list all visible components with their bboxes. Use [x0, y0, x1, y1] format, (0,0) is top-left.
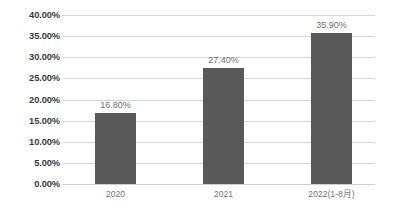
x-tick-label-2021: 2021	[183, 189, 264, 200]
bar-chart: 40.00% 35.00% 30.00% 25.00% 20.00% 15.00…	[0, 0, 399, 215]
y-axis: 40.00% 35.00% 30.00% 25.00% 20.00% 15.00…	[0, 0, 60, 215]
bar-2021[interactable]	[203, 68, 244, 184]
y-tick-label: 35.00%	[2, 31, 60, 41]
bar-value-label-2020: 16.80%	[75, 100, 156, 111]
plot-area: 16.80% 27.40% 35.90%	[62, 0, 375, 215]
y-tick-label: 5.00%	[2, 158, 60, 168]
bar-2022[interactable]	[311, 33, 352, 185]
y-tick-label: 20.00%	[2, 95, 60, 105]
y-tick-label: 25.00%	[2, 73, 60, 83]
y-tick-label: 0.00%	[2, 179, 60, 189]
bar-2020[interactable]	[95, 113, 136, 184]
y-tick-label: 30.00%	[2, 52, 60, 62]
bar-value-label-2022: 35.90%	[291, 20, 372, 31]
y-tick-label: 10.00%	[2, 137, 60, 147]
x-axis: 2020 2021 2022(1-8月)	[62, 189, 375, 209]
bars-layer: 16.80% 27.40% 35.90%	[62, 0, 375, 215]
bar-value-label-2021: 27.40%	[183, 55, 264, 66]
x-tick-label-2020: 2020	[75, 189, 156, 200]
y-tick-label: 15.00%	[2, 116, 60, 126]
y-tick-label: 40.00%	[2, 10, 60, 20]
x-tick-label-2022: 2022(1-8月)	[291, 189, 372, 200]
